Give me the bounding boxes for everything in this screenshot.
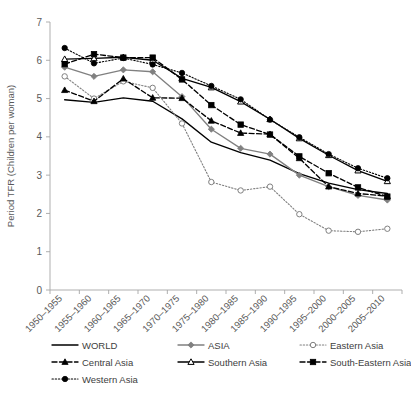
legend-label: Southern Asia xyxy=(208,357,268,368)
y-tick-label: 2 xyxy=(36,208,42,219)
series-southern-asia xyxy=(62,54,391,184)
x-axis: 1950–19551955–19601960–19651965–19701970… xyxy=(23,290,402,334)
legend-swatch-marker xyxy=(188,342,194,348)
data-point xyxy=(326,151,331,156)
data-point xyxy=(209,179,214,184)
data-point xyxy=(120,75,126,81)
data-point xyxy=(297,211,302,216)
data-point xyxy=(62,61,67,66)
series-line xyxy=(65,57,388,181)
y-tick-label: 5 xyxy=(36,93,42,104)
y-axis: 01234567 xyxy=(36,17,50,296)
data-point xyxy=(91,61,96,66)
data-point xyxy=(120,67,126,73)
data-point xyxy=(209,102,214,107)
data-point xyxy=(297,154,302,159)
chart-figure: 01234567Period TFR (Children per woman)1… xyxy=(0,0,411,407)
legend-swatch-marker xyxy=(310,342,315,347)
data-point xyxy=(355,185,360,190)
series-asia xyxy=(62,64,391,203)
legend-item-southern-asia[interactable]: Southern Asia xyxy=(178,357,268,368)
legend-item-eastern-asia[interactable]: Eastern Asia xyxy=(300,340,384,351)
data-point xyxy=(121,55,126,60)
data-point xyxy=(355,166,360,171)
y-tick-label: 7 xyxy=(36,17,42,28)
legend-swatch-marker xyxy=(62,376,67,381)
legend-label: South-Eastern Asia xyxy=(330,357,411,368)
legend-item-western-asia[interactable]: Western Asia xyxy=(52,374,139,385)
data-point xyxy=(355,229,360,234)
data-point xyxy=(385,176,390,181)
data-point xyxy=(179,70,184,75)
chart-canvas: 01234567Period TFR (Children per woman)1… xyxy=(0,0,411,407)
data-point xyxy=(267,132,272,137)
series-south-eastern-asia xyxy=(62,51,390,199)
legend-label: ASIA xyxy=(208,340,230,351)
data-point xyxy=(267,184,272,189)
data-point xyxy=(326,228,331,233)
y-axis-title: Period TFR (Children per woman) xyxy=(5,85,16,227)
data-point xyxy=(62,74,67,79)
chart-legend: WORLDASIAEastern AsiaCentral AsiaSouther… xyxy=(52,340,411,385)
y-tick-label: 4 xyxy=(36,131,42,142)
data-point xyxy=(238,97,243,102)
y-tick-label: 0 xyxy=(36,285,42,296)
data-point xyxy=(297,135,302,140)
data-point xyxy=(150,55,155,60)
data-point xyxy=(385,226,390,231)
y-tick-label: 3 xyxy=(36,170,42,181)
legend-label: Central Asia xyxy=(82,357,134,368)
legend-label: Western Asia xyxy=(82,374,139,385)
legend-item-south-eastern-asia[interactable]: South-Eastern Asia xyxy=(300,357,411,368)
data-point xyxy=(179,77,184,82)
data-point xyxy=(238,188,243,193)
data-point xyxy=(150,62,155,67)
legend-swatch-marker xyxy=(310,359,315,364)
data-point xyxy=(385,194,390,199)
legend-item-central-asia[interactable]: Central Asia xyxy=(52,357,134,368)
data-point xyxy=(238,122,243,127)
series-eastern-asia xyxy=(62,74,390,235)
data-point xyxy=(91,73,97,79)
series-line xyxy=(65,79,388,197)
data-point xyxy=(62,87,68,93)
series-line xyxy=(65,48,388,178)
legend-label: Eastern Asia xyxy=(330,340,384,351)
data-point xyxy=(267,117,272,122)
data-point xyxy=(209,83,214,88)
data-point xyxy=(179,121,184,126)
series-line xyxy=(65,54,388,196)
data-point xyxy=(62,45,67,50)
legend-label: WORLD xyxy=(82,340,118,351)
series-western-asia xyxy=(62,45,390,181)
data-point xyxy=(326,171,331,176)
legend-item-asia[interactable]: ASIA xyxy=(178,340,230,351)
series-world xyxy=(65,98,388,194)
data-point xyxy=(91,51,96,56)
y-tick-label: 6 xyxy=(36,55,42,66)
y-tick-label: 1 xyxy=(36,246,42,257)
series-line xyxy=(65,98,388,194)
data-point xyxy=(150,85,155,90)
legend-item-world[interactable]: WORLD xyxy=(52,340,118,351)
